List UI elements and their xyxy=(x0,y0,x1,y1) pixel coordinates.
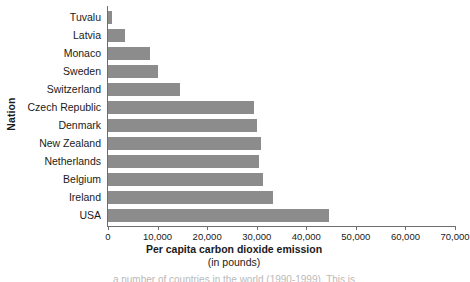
x-axis-tick-label: 10,000 xyxy=(143,231,172,243)
bar xyxy=(108,65,158,78)
x-axis-tick-labels: 010,00020,00030,00040,00050,00060,00070,… xyxy=(108,231,455,243)
category-label: USA xyxy=(20,206,105,224)
bar-row xyxy=(108,8,455,26)
category-label: Switzerland xyxy=(20,80,105,98)
bar-row xyxy=(108,80,455,98)
x-axis-tick xyxy=(158,226,159,230)
category-label: Czech Republic xyxy=(20,98,105,116)
bar-row xyxy=(108,26,455,44)
x-axis-tick xyxy=(455,226,456,230)
bar-row xyxy=(108,206,455,224)
bar xyxy=(108,83,180,96)
bar xyxy=(108,209,329,222)
y-axis-title: Nation xyxy=(2,0,20,228)
x-axis-tick-label: 0 xyxy=(105,231,110,243)
x-axis-tick xyxy=(108,226,109,230)
bar-row xyxy=(108,170,455,188)
category-label: Latvia xyxy=(20,26,105,44)
x-axis-tick-label: 40,000 xyxy=(292,231,321,243)
category-label: Tuvalu xyxy=(20,8,105,26)
bar-row xyxy=(108,188,455,206)
bar xyxy=(108,11,112,24)
category-label: Denmark xyxy=(20,116,105,134)
bar xyxy=(108,29,125,42)
bar-row xyxy=(108,134,455,152)
x-axis-tick-label: 60,000 xyxy=(391,231,420,243)
x-axis-tick xyxy=(356,226,357,230)
category-axis-labels: TuvaluLatviaMonacoSwedenSwitzerlandCzech… xyxy=(20,8,105,224)
x-axis-tick-label: 30,000 xyxy=(242,231,271,243)
x-axis-subtitle: (in pounds) xyxy=(0,256,468,269)
bar xyxy=(108,191,273,204)
bar-row xyxy=(108,98,455,116)
x-axis-tick-label: 20,000 xyxy=(193,231,222,243)
category-label: Monaco xyxy=(20,44,105,62)
bar xyxy=(108,119,257,132)
plot-area xyxy=(108,8,455,224)
x-axis-tick-label: 70,000 xyxy=(440,231,469,243)
bar-series xyxy=(108,8,455,224)
category-label: New Zealand xyxy=(20,134,105,152)
bar xyxy=(108,155,259,168)
bar-row xyxy=(108,44,455,62)
clipped-caption: a number of countries in the world (1990… xyxy=(0,273,468,282)
category-label: Sweden xyxy=(20,62,105,80)
x-axis-tick xyxy=(306,226,307,230)
x-axis-tick xyxy=(405,226,406,230)
x-axis-tick xyxy=(257,226,258,230)
bar-row xyxy=(108,116,455,134)
category-label: Netherlands xyxy=(20,152,105,170)
x-axis-tick xyxy=(207,226,208,230)
x-axis-tick-label: 50,000 xyxy=(341,231,370,243)
bar xyxy=(108,173,263,186)
y-axis-title-text: Nation xyxy=(5,97,17,130)
bar xyxy=(108,137,261,150)
bar-row xyxy=(108,62,455,80)
bar-row xyxy=(108,152,455,170)
bar xyxy=(108,101,254,114)
x-axis-title: Per capita carbon dioxide emission xyxy=(0,243,468,256)
bar xyxy=(108,47,150,60)
category-label: Belgium xyxy=(20,170,105,188)
category-label: Ireland xyxy=(20,188,105,206)
